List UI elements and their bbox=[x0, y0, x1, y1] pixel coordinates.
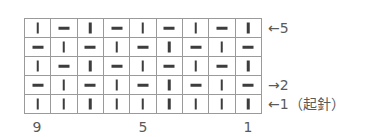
knit-stitch-icon bbox=[168, 42, 171, 53]
chart-cell bbox=[183, 19, 209, 38]
chart-cell bbox=[130, 76, 156, 95]
knit-stitch-icon bbox=[63, 80, 66, 91]
chart-cell bbox=[183, 95, 209, 114]
chart-cell bbox=[104, 57, 130, 76]
row-label-2: →2 bbox=[268, 78, 289, 92]
chart-cell bbox=[130, 38, 156, 57]
row-label-5: ←5 bbox=[268, 21, 289, 35]
purl-stitch-icon bbox=[85, 84, 96, 87]
knit-stitch-icon bbox=[247, 99, 250, 110]
chart-cell bbox=[25, 57, 51, 76]
chart-cell bbox=[51, 57, 77, 76]
knit-stitch-icon bbox=[194, 61, 197, 72]
chart-cell bbox=[104, 38, 130, 57]
chart-cell bbox=[209, 76, 235, 95]
knit-stitch-icon bbox=[63, 99, 66, 110]
knit-stitch-icon bbox=[221, 80, 224, 91]
knit-stitch-icon bbox=[194, 99, 197, 110]
purl-stitch-icon bbox=[111, 65, 122, 68]
chart-cell bbox=[130, 57, 156, 76]
chart-cell bbox=[78, 57, 104, 76]
chart-cell bbox=[25, 95, 51, 114]
purl-stitch-icon bbox=[111, 27, 122, 30]
chart-cell bbox=[104, 19, 130, 38]
chart-cell bbox=[157, 57, 183, 76]
knit-stitch-icon bbox=[36, 99, 39, 110]
knit-stitch-icon bbox=[36, 23, 39, 34]
knit-stitch-icon bbox=[63, 42, 66, 53]
chart-cell bbox=[104, 76, 130, 95]
knit-stitch-icon bbox=[142, 99, 145, 110]
col-label-9: 9 bbox=[33, 120, 42, 134]
purl-stitch-icon bbox=[164, 27, 175, 30]
chart-cell bbox=[209, 19, 235, 38]
chart-cell bbox=[51, 38, 77, 57]
knit-stitch-icon bbox=[221, 99, 224, 110]
chart-cell bbox=[78, 19, 104, 38]
chart-cell bbox=[183, 57, 209, 76]
col-label-5: 5 bbox=[139, 120, 148, 134]
chart-cell bbox=[157, 95, 183, 114]
chart-cell bbox=[78, 38, 104, 57]
knit-stitch-icon bbox=[89, 99, 92, 110]
chart-cell bbox=[209, 38, 235, 57]
purl-stitch-icon bbox=[58, 65, 69, 68]
purl-stitch-icon bbox=[243, 46, 254, 49]
knit-stitch-icon bbox=[89, 61, 92, 72]
purl-stitch-icon bbox=[58, 27, 69, 30]
purl-stitch-icon bbox=[216, 65, 227, 68]
chart-cell bbox=[209, 95, 235, 114]
chart-cell bbox=[78, 95, 104, 114]
chart-cell bbox=[236, 95, 262, 114]
purl-stitch-icon bbox=[216, 27, 227, 30]
chart-cell bbox=[78, 76, 104, 95]
chart-cell bbox=[25, 38, 51, 57]
purl-stitch-icon bbox=[243, 84, 254, 87]
purl-stitch-icon bbox=[85, 46, 96, 49]
purl-stitch-icon bbox=[137, 46, 148, 49]
chart-cell bbox=[157, 38, 183, 57]
purl-stitch-icon bbox=[137, 84, 148, 87]
chart-cell bbox=[51, 95, 77, 114]
knit-stitch-icon bbox=[115, 80, 118, 91]
chart-cell bbox=[25, 19, 51, 38]
chart-cell bbox=[236, 38, 262, 57]
purl-stitch-icon bbox=[32, 84, 43, 87]
knit-stitch-icon bbox=[36, 61, 39, 72]
knit-stitch-icon bbox=[115, 99, 118, 110]
chart-cell bbox=[130, 19, 156, 38]
chart-cell bbox=[51, 19, 77, 38]
chart-cell bbox=[157, 19, 183, 38]
chart-cell bbox=[183, 38, 209, 57]
chart-cell bbox=[25, 76, 51, 95]
chart-cell bbox=[183, 76, 209, 95]
knit-stitch-icon bbox=[221, 42, 224, 53]
knit-stitch-icon bbox=[247, 61, 250, 72]
row-label-1-cast-on: ←1（起針） bbox=[268, 97, 345, 111]
chart-cell bbox=[236, 19, 262, 38]
col-label-1: 1 bbox=[244, 120, 253, 134]
purl-stitch-icon bbox=[190, 46, 201, 49]
chart-cell bbox=[130, 95, 156, 114]
knit-stitch-icon bbox=[168, 80, 171, 91]
knit-stitch-icon bbox=[142, 61, 145, 72]
purl-stitch-icon bbox=[32, 46, 43, 49]
knit-stitch-icon bbox=[247, 23, 250, 34]
knit-stitch-icon bbox=[194, 23, 197, 34]
chart-cell bbox=[157, 76, 183, 95]
knit-stitch-icon bbox=[168, 99, 171, 110]
chart-cell bbox=[236, 76, 262, 95]
knit-stitch-icon bbox=[142, 23, 145, 34]
chart-cell bbox=[104, 95, 130, 114]
purl-stitch-icon bbox=[190, 84, 201, 87]
knit-stitch-icon bbox=[115, 42, 118, 53]
purl-stitch-icon bbox=[164, 65, 175, 68]
chart-cell bbox=[209, 57, 235, 76]
knitting-chart-grid bbox=[24, 18, 262, 114]
chart-cell bbox=[51, 76, 77, 95]
knit-stitch-icon bbox=[89, 23, 92, 34]
chart-cell bbox=[236, 57, 262, 76]
